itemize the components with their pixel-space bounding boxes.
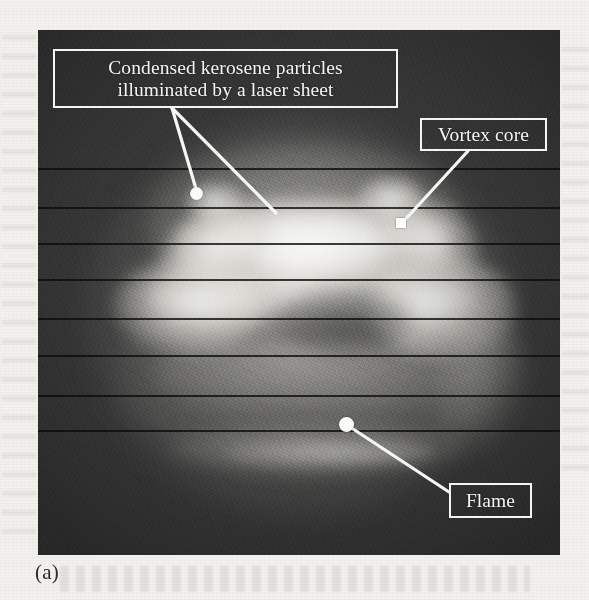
annotation-layer: Condensed kerosene particles illuminated… <box>0 0 589 600</box>
callout-flame: Flame <box>449 483 532 518</box>
marker-dot-flame <box>339 417 354 432</box>
marker-dot-kerosene-particles <box>190 187 203 200</box>
callout-particles-line1: Condensed kerosene particles <box>108 57 343 79</box>
leader-vortex-core <box>403 151 468 222</box>
figure-page: Condensed kerosene particles illuminated… <box>0 0 589 600</box>
leader-particles-left <box>172 108 197 191</box>
leader-flame <box>347 425 449 492</box>
callout-flame-label: Flame <box>466 490 515 512</box>
leader-particles-right <box>172 108 276 213</box>
callout-vortex-label: Vortex core <box>438 124 529 146</box>
callout-particles-line2: illuminated by a laser sheet <box>117 79 333 101</box>
callout-vortex-core: Vortex core <box>420 118 547 151</box>
callout-kerosene-particles: Condensed kerosene particles illuminated… <box>53 49 398 108</box>
marker-square-vortex-core <box>396 218 406 228</box>
